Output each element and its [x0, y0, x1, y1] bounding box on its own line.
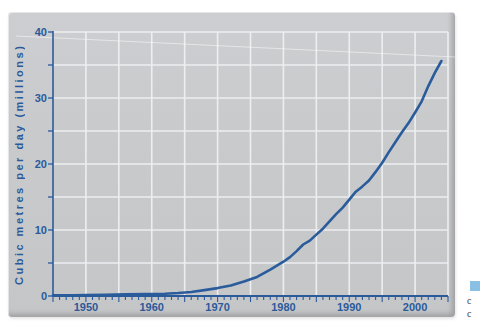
- y-tick-label: 10: [21, 224, 47, 236]
- x-tick-label: 2000: [393, 301, 437, 313]
- axis-ticks: [48, 32, 448, 302]
- line-chart: [0, 0, 480, 332]
- gridlines: [53, 32, 448, 296]
- series-line: [53, 61, 441, 295]
- figure-page: Cubic metres per day (millions) 19501960…: [0, 0, 480, 332]
- artifact-line: [16, 36, 455, 57]
- y-tick-label: 40: [21, 26, 47, 38]
- x-tick-label: 1970: [196, 301, 240, 313]
- y-tick-label: 30: [21, 92, 47, 104]
- caption-figure-marker: [470, 281, 480, 291]
- y-tick-label: 0: [21, 290, 47, 302]
- caption-line-2: c: [467, 308, 480, 319]
- scan-artifact-line: [16, 36, 455, 57]
- x-tick-label: 1980: [261, 301, 305, 313]
- y-tick-label: 20: [21, 158, 47, 170]
- caption-line-1: c: [467, 295, 480, 306]
- x-tick-label: 1960: [130, 301, 174, 313]
- data-line: [53, 61, 441, 295]
- x-tick-label: 1950: [64, 301, 108, 313]
- x-tick-label: 1990: [327, 301, 371, 313]
